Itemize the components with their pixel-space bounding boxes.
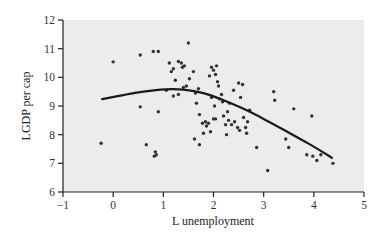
data-point xyxy=(111,60,114,63)
data-point xyxy=(198,143,201,146)
data-point xyxy=(185,84,188,87)
data-point xyxy=(192,70,195,73)
data-point xyxy=(284,137,287,140)
data-point xyxy=(236,126,239,129)
x-tick-label: 3 xyxy=(261,199,267,211)
y-tick-label: 8 xyxy=(49,129,55,141)
data-point xyxy=(230,123,233,126)
data-point xyxy=(170,70,173,73)
data-point xyxy=(237,81,240,84)
data-point xyxy=(205,124,208,127)
data-point xyxy=(266,169,269,172)
y-tick-label: 7 xyxy=(49,157,55,169)
data-point xyxy=(215,64,218,67)
data-point xyxy=(212,117,215,120)
data-point xyxy=(212,68,215,71)
data-point xyxy=(216,80,219,83)
data-point xyxy=(214,73,217,76)
data-point xyxy=(99,142,102,145)
x-axis-title: L unemployment xyxy=(172,214,255,228)
x-tick-label: 4 xyxy=(311,199,317,211)
y-tick-label: 10 xyxy=(44,71,56,83)
data-point xyxy=(187,41,190,44)
data-point xyxy=(310,114,313,117)
data-point xyxy=(210,66,213,69)
y-tick-label: 9 xyxy=(49,100,55,112)
data-point xyxy=(145,143,148,146)
data-point xyxy=(220,93,223,96)
data-point xyxy=(242,116,245,119)
data-point xyxy=(188,77,191,80)
data-point xyxy=(177,60,180,63)
data-point xyxy=(204,120,207,123)
data-point xyxy=(217,84,220,87)
data-point xyxy=(292,107,295,110)
data-point xyxy=(201,122,204,125)
data-point xyxy=(224,123,227,126)
data-point xyxy=(172,67,175,70)
x-tick-label: −1 xyxy=(57,199,69,211)
data-point xyxy=(177,93,180,96)
data-point xyxy=(183,64,186,67)
data-point xyxy=(209,130,212,133)
data-point xyxy=(157,50,160,53)
data-point xyxy=(155,153,158,156)
data-point xyxy=(238,129,241,132)
y-ticks: 6789101112 xyxy=(44,14,64,198)
x-tick-label: 2 xyxy=(211,199,217,211)
y-tick-label: 11 xyxy=(44,43,55,55)
data-point xyxy=(273,99,276,102)
data-point xyxy=(233,120,236,123)
data-point xyxy=(305,153,308,156)
data-point xyxy=(193,137,196,140)
data-point xyxy=(225,133,228,136)
data-point xyxy=(168,61,171,64)
y-tick-label: 12 xyxy=(44,14,56,26)
x-tick-label: 1 xyxy=(160,199,166,211)
data-point xyxy=(222,114,225,117)
data-point xyxy=(180,61,183,64)
data-point xyxy=(245,132,248,135)
data-point xyxy=(227,119,230,122)
data-point xyxy=(241,83,244,86)
data-point xyxy=(207,122,210,125)
data-point xyxy=(232,89,235,92)
data-point xyxy=(198,113,201,116)
data-point xyxy=(226,110,229,113)
data-point xyxy=(152,50,155,53)
data-point xyxy=(244,126,247,129)
data-point xyxy=(287,146,290,149)
data-point xyxy=(208,74,211,77)
scatter-chart: 6789101112 −1012345 L unemployment LGDP … xyxy=(0,0,389,243)
data-point xyxy=(157,110,160,113)
data-point xyxy=(331,162,334,165)
data-point xyxy=(319,153,322,156)
data-point xyxy=(239,96,242,99)
x-ticks: −1012345 xyxy=(57,192,367,211)
x-tick-label: 5 xyxy=(361,199,367,211)
data-point xyxy=(315,159,318,162)
data-point xyxy=(255,146,258,149)
data-point xyxy=(202,132,205,135)
data-point xyxy=(213,104,216,107)
y-tick-label: 6 xyxy=(49,186,55,198)
data-point xyxy=(195,101,198,104)
data-point xyxy=(174,79,177,82)
data-point xyxy=(311,154,314,157)
y-axis-title: LGDP per cap xyxy=(19,72,33,141)
data-point xyxy=(246,120,249,123)
data-point xyxy=(272,90,275,93)
data-point xyxy=(197,87,200,90)
data-point xyxy=(139,53,142,56)
x-tick-label: 0 xyxy=(110,199,116,211)
data-point xyxy=(172,94,175,97)
data-point xyxy=(139,105,142,108)
